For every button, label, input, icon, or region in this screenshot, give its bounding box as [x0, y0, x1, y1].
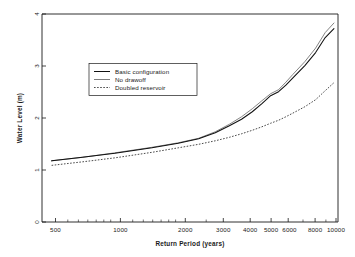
x-tick-label-4000: 4000 — [243, 226, 258, 233]
y-tick-label-4: 4 — [33, 12, 40, 16]
x-tick-label-3000: 3000 — [216, 226, 231, 233]
y-axis-tick-labels: 0 1 2 3 4 — [33, 12, 40, 224]
x-tick-label-6000: 6000 — [282, 226, 297, 233]
y-tick-label-3: 3 — [33, 64, 40, 68]
legend-label-no-drawoff: No drawoff — [115, 76, 146, 83]
legend-label-doubled-reservoir: Doubled reservoir — [115, 84, 166, 91]
x-tick-label-2000: 2000 — [178, 226, 193, 233]
x-axis-ticks — [56, 218, 337, 222]
x-tick-label-5000: 5000 — [264, 226, 279, 233]
water-level-return-period-chart: 0 1 2 3 4 Water Level (m) — [0, 0, 355, 257]
x-tick-label-10000: 10000 — [327, 226, 345, 233]
y-tick-label-2: 2 — [33, 116, 40, 120]
y-tick-label-1: 1 — [33, 168, 40, 172]
legend-label-basic-configuration: Basic configuration — [115, 68, 170, 75]
x-tick-label-8000: 8000 — [308, 226, 323, 233]
x-axis-tick-labels: 500 1000 2000 3000 4000 5000 6000 8000 1… — [50, 226, 345, 233]
x-tick-label-1000: 1000 — [113, 226, 128, 233]
chart-figure: 0 1 2 3 4 Water Level (m) — [0, 0, 355, 257]
plot-frame — [42, 14, 338, 222]
x-axis-title: Return Period (years) — [155, 240, 224, 248]
y-tick-label-0: 0 — [33, 220, 40, 224]
chart-legend: Basic configuration No drawoff Doubled r… — [89, 64, 197, 96]
y-axis-ticks — [42, 14, 46, 222]
y-axis-title: Water Level (m) — [16, 93, 24, 143]
x-tick-label-500: 500 — [50, 226, 61, 233]
